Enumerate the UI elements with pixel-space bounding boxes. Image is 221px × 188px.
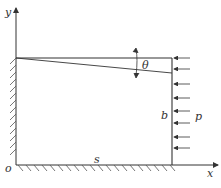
y-axis-label: y — [4, 6, 12, 19]
plate-outline — [16, 58, 172, 165]
origin-label: o — [5, 162, 12, 175]
plate-diagram: y x o s b p θ — [0, 0, 221, 188]
angle-theta-marker — [133, 48, 139, 78]
x-axis-label: x — [207, 167, 214, 180]
left-wall-hatch — [10, 58, 16, 155]
pressure-arrows — [174, 58, 190, 148]
length-label: s — [94, 153, 100, 166]
pressure-label: p — [195, 110, 202, 123]
angle-label: θ — [142, 59, 149, 72]
height-label: b — [161, 109, 168, 122]
